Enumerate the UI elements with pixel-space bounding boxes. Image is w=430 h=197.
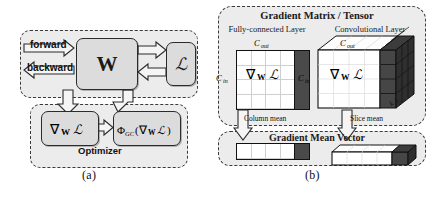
panel-b: Gradient Matrix / Tensor Fully-connected…: [214, 4, 426, 164]
gc-operator-label: Φ GC ( ∇ W ℒ ): [117, 121, 177, 137]
slice-mean-label: Slice mean: [350, 114, 383, 123]
weight-box[interactable]: W: [76, 38, 138, 90]
gradient-label: ∇ W ℒ: [48, 121, 92, 137]
forward-label: forward: [30, 39, 67, 50]
svg-text:ℒ: ℒ: [157, 124, 166, 136]
svg-text:Φ: Φ: [117, 124, 125, 136]
conv-mean-vector: [332, 144, 422, 166]
gradient-to-gc-arrow: [98, 120, 113, 135]
optimizer-label: Optimizer: [78, 145, 122, 156]
w-to-loss-arrow: [138, 42, 166, 58]
svg-text:W: W: [61, 127, 70, 137]
svg-text:GC: GC: [125, 130, 135, 137]
fc-mean-highlight: [294, 144, 309, 159]
caption-a: (a): [82, 168, 96, 183]
svg-text:∇: ∇: [49, 122, 60, 137]
panel-a: forward backward W ℒ ∇ W ℒ Φ: [8, 6, 204, 191]
svg-text:∇: ∇: [138, 123, 148, 137]
gradient-mean-vector-title: Gradient Mean Vector: [214, 132, 420, 143]
gc-operator-box[interactable]: Φ GC ( ∇ W ℒ ): [113, 111, 181, 146]
caption-b: (b): [305, 168, 320, 183]
svg-text:ℒ: ℒ: [73, 122, 83, 137]
column-mean-label: Column mean: [244, 114, 286, 123]
loss-label: ℒ: [175, 54, 187, 75]
weight-label: W: [97, 52, 118, 77]
loss-to-w-arrow: [138, 64, 166, 80]
gradient-box[interactable]: ∇ W ℒ: [41, 111, 99, 146]
svg-text:W: W: [148, 128, 156, 137]
fc-mean-vector: [236, 143, 310, 160]
loss-box[interactable]: ℒ: [166, 42, 196, 86]
backward-label: backward: [27, 62, 73, 73]
svg-text:): ): [167, 124, 171, 137]
panel-a-arrows: [8, 6, 204, 191]
gc-to-w-arrow: [113, 90, 133, 112]
figure-root: forward backward W ℒ ∇ W ℒ Φ: [0, 0, 430, 197]
